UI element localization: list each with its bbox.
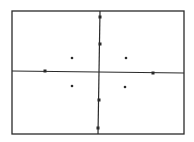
tick-bottom-inner-marker — [98, 99, 101, 102]
point-upper-right-dot — [125, 57, 128, 60]
tick-right-marker — [152, 72, 155, 75]
tick-left-marker — [44, 70, 47, 73]
tick-top-inner-marker — [99, 43, 102, 46]
tick-top-outer-marker — [99, 16, 102, 19]
point-lower-left-dot — [71, 85, 74, 88]
crosshair-diagram — [0, 0, 194, 142]
tick-bottom-outer-marker — [97, 127, 100, 130]
point-lower-right-dot — [124, 86, 127, 89]
point-upper-left-dot — [71, 57, 74, 60]
